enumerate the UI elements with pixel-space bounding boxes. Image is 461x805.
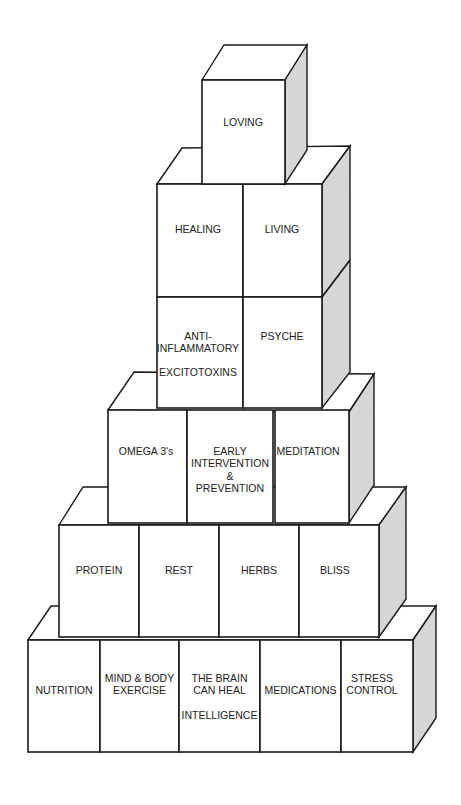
block-label: MEDITATION (276, 445, 339, 457)
block-label: HEALING (175, 223, 221, 235)
block-label-line-2: CAN HEAL (193, 684, 246, 696)
block-label: MEDICATIONS (264, 684, 336, 696)
block-label-line-4: PREVENTION (196, 482, 264, 494)
block-omega-3s: OMEGA 3's (108, 410, 187, 523)
block-rest: REST (139, 525, 219, 637)
block-protein: PROTEIN (59, 525, 139, 637)
block-herbs: HERBS (219, 525, 299, 637)
block-stress-control: STRESS CONTROL (341, 640, 413, 752)
block-brain-can-heal: THE BRAIN CAN HEAL INTELLIGENCE (179, 640, 260, 752)
block-label-line-1: ANTI- (184, 330, 212, 342)
block-label-line-1: EARLY (213, 445, 247, 457)
tier-2-3-side-face (322, 146, 350, 408)
block-label: HERBS (241, 564, 277, 576)
block-label: PSYCHE (260, 330, 303, 342)
block-label-line-2: EXERCISE (113, 684, 166, 696)
block-label-line-1: MIND & BODY (105, 672, 174, 684)
block-label-line-3: & (226, 470, 233, 482)
block-label: LIVING (265, 223, 299, 235)
block-label: LOVING (223, 116, 263, 128)
block-pyramid-diagram: NUTRITION MIND & BODY EXERCISE THE BRAIN… (0, 0, 461, 805)
block-label: OMEGA 3's (119, 445, 174, 457)
block-label-line-2: CONTROL (346, 684, 397, 696)
block-mind-body-exercise: MIND & BODY EXERCISE (100, 640, 179, 752)
block-bliss: BLISS (299, 525, 379, 637)
block-label-line-2: INTERVENTION (191, 457, 269, 469)
block-loving: LOVING (202, 80, 285, 184)
block-label: NUTRITION (35, 684, 92, 696)
tier-1: LOVING (202, 45, 307, 184)
block-label: PROTEIN (76, 564, 123, 576)
block-label: BLISS (320, 564, 350, 576)
block-label-line-2: INFLAMMATORY (157, 342, 239, 354)
block-meditation: MEDITATION (275, 410, 349, 523)
block-label: REST (165, 564, 194, 576)
block-healing: HEALING (157, 184, 243, 297)
block-label-line-1: STRESS (351, 672, 393, 684)
block-label-line-4: EXCITOTOXINS (159, 366, 237, 378)
block-nutrition: NUTRITION (28, 640, 100, 752)
block-living: LIVING (243, 184, 322, 297)
block-label-line-1: THE BRAIN (191, 672, 247, 684)
tier-2-3: HEALING LIVING ANTI- INFLAMMATORY EXCITO… (157, 146, 350, 408)
block-label-line-4: INTELLIGENCE (182, 709, 258, 721)
block-anti-inflammatory-excitotoxins: ANTI- INFLAMMATORY EXCITOTOXINS (157, 297, 243, 408)
block-psyche: PSYCHE (243, 297, 322, 408)
block-early-intervention-prevention: EARLY INTERVENTION & PREVENTION (187, 410, 273, 523)
block-medications: MEDICATIONS (260, 640, 341, 752)
